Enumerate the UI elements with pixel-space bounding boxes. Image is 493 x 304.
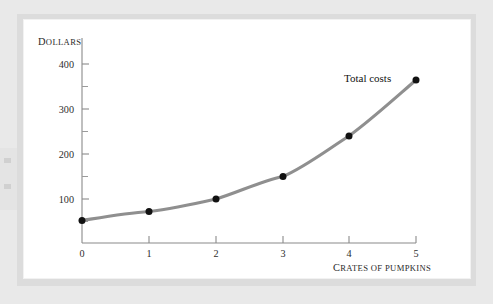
data-point [413,77,420,84]
line-chart: 400 300 200 100 0 1 2 3 4 5 DOLLARS CRAT… [0,0,493,304]
series-annotation-total-costs: Total costs [344,72,391,84]
x-tick-label: 3 [280,248,285,259]
x-axis-label-rest: RATES OF PUMPKINS [340,263,431,273]
y-tick-label: 100 [59,194,74,205]
x-tick-label: 1 [146,248,151,259]
y-axis-label-rest: OLLARS [46,37,82,47]
y-tick-label: 300 [59,104,74,115]
y-tick-label: 400 [59,59,74,70]
data-point [346,133,353,140]
series-line-total-costs [82,80,416,221]
y-axis-label-lead: D [38,36,46,47]
x-tick-label: 0 [79,248,84,259]
x-axis-label: CRATES OF PUMPKINS [333,262,431,273]
y-axis-label: DOLLARS [38,36,81,47]
x-tick-label: 2 [213,248,218,259]
data-point [79,217,86,224]
y-tick-label: 200 [59,149,74,160]
series-markers-total-costs [79,77,420,225]
x-tick-label: 4 [346,248,351,259]
x-major-ticks [149,236,416,243]
data-point [280,173,287,180]
figure-container: 400 300 200 100 0 1 2 3 4 5 DOLLARS CRAT… [0,0,493,304]
data-point [146,208,153,215]
x-axis-label-lead: C [333,262,340,273]
x-tick-label: 5 [413,248,418,259]
data-point [213,196,220,203]
